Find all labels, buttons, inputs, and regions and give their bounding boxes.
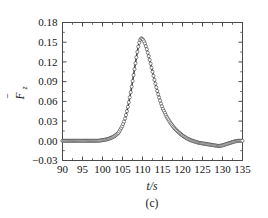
data-point <box>148 58 151 61</box>
data-point <box>131 79 134 82</box>
x-tick-label: 120 <box>174 163 191 175</box>
data-point <box>156 89 159 92</box>
y-axis-title-subscript: z <box>20 86 29 91</box>
data-point <box>127 101 130 104</box>
data-point <box>155 86 158 89</box>
data-markers <box>61 37 244 148</box>
x-tick-label: 135 <box>234 163 251 175</box>
y-tick-label: 0.09 <box>38 75 58 87</box>
figure-panel: 9095100105110115120125130135 −0.030.000.… <box>0 0 268 218</box>
data-point <box>152 74 155 77</box>
data-series-layer <box>61 37 244 148</box>
data-point <box>158 96 161 99</box>
x-tick-label: 110 <box>134 163 151 175</box>
data-point <box>124 113 127 116</box>
y-tick-label: 0.15 <box>38 36 58 48</box>
x-tick-label: 100 <box>94 163 111 175</box>
data-point <box>145 48 148 51</box>
y-tick-label: 0.12 <box>38 56 57 68</box>
chart-plot: 9095100105110115120125130135 −0.030.000.… <box>0 0 268 218</box>
data-point <box>134 62 137 65</box>
data-point <box>149 62 152 65</box>
data-point <box>146 51 149 54</box>
data-point <box>123 117 126 120</box>
y-tick-label: 0.03 <box>38 115 58 127</box>
data-point <box>130 85 133 88</box>
data-point <box>126 105 129 108</box>
data-point <box>135 56 138 59</box>
x-tick-label: 130 <box>214 163 231 175</box>
x-tick-label: 105 <box>114 163 131 175</box>
data-point <box>122 120 125 123</box>
y-tick-label: −0.03 <box>32 154 58 166</box>
data-point <box>137 45 140 48</box>
y-tick-label: 0.00 <box>38 135 58 147</box>
y-tick-label: 0.18 <box>38 16 58 28</box>
x-tick-labels: 9095100105110115120125130135 <box>57 163 251 175</box>
data-point <box>133 68 136 71</box>
data-point <box>157 93 160 96</box>
data-point <box>154 82 157 85</box>
x-tick-label: 115 <box>154 163 171 175</box>
data-point <box>128 96 131 99</box>
y-axis-title: F ‾ z <box>7 86 30 101</box>
y-tick-labels: −0.030.000.030.060.090.120.150.18 <box>32 16 58 166</box>
y-tick-label: 0.06 <box>38 95 58 107</box>
data-point <box>151 70 154 73</box>
data-curve <box>63 38 243 146</box>
x-tick-label: 90 <box>57 163 69 175</box>
data-point <box>241 139 244 142</box>
data-point <box>132 73 135 76</box>
x-tick-label: 125 <box>194 163 211 175</box>
data-point <box>150 66 153 69</box>
data-point <box>129 91 132 94</box>
x-axis-title: t/s <box>147 180 158 192</box>
data-point <box>144 45 147 48</box>
data-point <box>136 50 139 53</box>
data-point <box>125 110 128 113</box>
x-tick-label: 95 <box>77 163 89 175</box>
figure-caption: (c) <box>146 197 159 210</box>
data-point <box>147 55 150 58</box>
data-point <box>153 78 156 81</box>
